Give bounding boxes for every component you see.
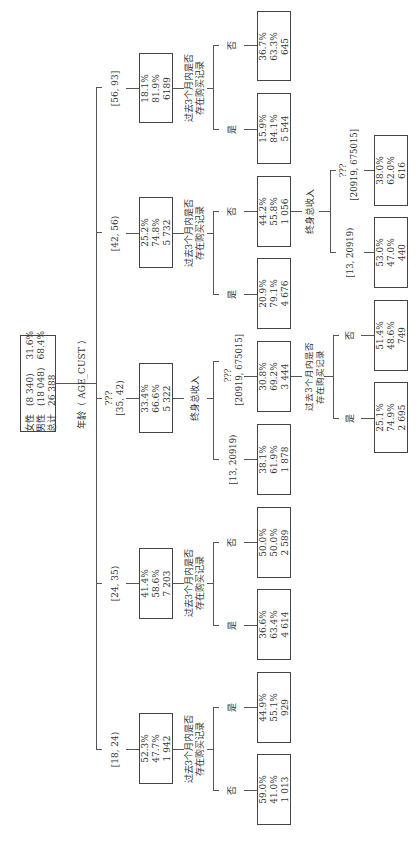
node-values: 50.0%50.0%2 589 — [258, 518, 291, 568]
node-values: 36.6%63.4%4 614 — [258, 600, 291, 650]
node-values: 36.7%63.3%645 — [258, 22, 291, 72]
connector — [244, 707, 257, 708]
root-count: (18 048) — [36, 367, 47, 406]
connector — [244, 129, 257, 130]
connector — [330, 252, 336, 253]
connector — [330, 170, 331, 253]
branch-label: 是 — [227, 618, 238, 634]
connector — [364, 252, 374, 253]
connector — [126, 398, 139, 399]
split-label: 过去3个月内是否存在购买记录 — [184, 48, 206, 128]
root-node-content: 女性 (8 340) 31.6% 男性 (18 048) 68.4% 总计 26… — [25, 336, 51, 432]
connector — [213, 361, 214, 460]
connector — [96, 87, 102, 88]
connector — [361, 418, 374, 419]
connector — [244, 625, 257, 626]
connector — [126, 233, 139, 234]
root-label: 总计 — [47, 414, 58, 432]
connector — [244, 211, 257, 212]
connector — [173, 233, 184, 234]
node-values: 15.9%84.1%5 544 — [258, 104, 291, 154]
connector — [291, 376, 302, 377]
connector — [333, 418, 339, 419]
connector — [213, 542, 214, 626]
connector — [319, 211, 330, 212]
connector — [213, 294, 219, 295]
connector — [126, 749, 139, 750]
branch-label: 是 — [227, 287, 238, 303]
split-label: 过去3个月内是否存在购买记录 — [184, 709, 206, 789]
connector — [173, 88, 184, 89]
root-label: 男性 — [36, 414, 47, 432]
branch-label: [18, 24) — [110, 730, 121, 770]
split-label: 终身总收入 — [190, 374, 201, 424]
node-values: 25.2%74.8%5 732 — [140, 208, 173, 258]
branch-label: [13, 20919) — [228, 430, 239, 490]
connector — [213, 625, 219, 626]
node-values: 18.1%81.9%6189 — [140, 64, 173, 114]
connector — [213, 707, 219, 708]
connector — [96, 232, 102, 233]
branch-label: 否 — [227, 535, 238, 551]
trunk-line — [96, 87, 97, 750]
split-label: 过去3个月内是否存在购买记录 — [184, 193, 206, 273]
node-values: 51.4%48.6%749 — [375, 311, 408, 361]
split-label: 过去3个月内是否存在购买记录 — [304, 337, 325, 417]
split-label: 过去3个月内是否存在购买记录 — [184, 543, 206, 623]
connector — [330, 170, 336, 171]
node-values: 20.9%79.1%4 676 — [258, 269, 291, 319]
branch-label: [56, 93] — [110, 69, 121, 109]
node-values: 33.4%66.6%5 322 — [140, 374, 173, 424]
branch-label: [24, 35) — [110, 564, 121, 604]
root-label: 女性 — [25, 414, 36, 432]
connector — [173, 749, 184, 750]
branch-label: 是 — [227, 700, 238, 716]
branch-label: [13, 20919) — [345, 223, 356, 283]
connector — [333, 335, 339, 336]
connector — [96, 398, 102, 399]
branch-label: 否 — [345, 328, 356, 344]
branch-label: 否 — [227, 783, 238, 799]
connector — [333, 335, 334, 419]
root-count: (8 340) — [25, 367, 36, 406]
connector — [213, 790, 219, 791]
branch-label: [42, 56) — [110, 214, 121, 254]
node-values: 44.9%55.1%929 — [258, 683, 291, 733]
connector — [96, 583, 102, 584]
connector — [324, 376, 333, 377]
node-values: 44.2%55.8%1 056 — [258, 187, 291, 237]
connector — [244, 45, 257, 46]
connector — [244, 459, 257, 460]
connector — [244, 294, 257, 295]
connector — [213, 129, 219, 130]
node-values: 52.3%47.7%1 942 — [140, 724, 173, 774]
root-count: 26 388 — [47, 367, 58, 406]
node-values: 59.0%41.0%1 013 — [258, 765, 291, 815]
connector — [96, 749, 102, 750]
branch-label: ???[35, 42) — [104, 378, 126, 418]
connector — [213, 459, 219, 460]
node-values: 38.0%62.0%616 — [375, 146, 408, 196]
node-values: 25.1%74.9%2 695 — [375, 393, 408, 443]
branch-label: 是 — [345, 411, 356, 427]
connector — [213, 707, 214, 791]
connector — [361, 335, 374, 336]
split-label: 终身总收入 — [305, 187, 316, 237]
connector — [213, 211, 214, 295]
node-values: 53.0%47.0%440 — [375, 228, 408, 278]
branch-label: ???[20919, 675015] — [223, 346, 244, 406]
root-pct: 31.6% — [25, 331, 36, 360]
connector — [173, 583, 184, 584]
connector — [244, 790, 257, 791]
node-values: 38.1%61.9%1 878 — [258, 435, 291, 485]
connector — [291, 211, 302, 212]
node-values: 41.4%58.6%7 203 — [140, 559, 173, 609]
branch-label: 否 — [227, 38, 238, 54]
connector — [126, 583, 139, 584]
connector — [213, 542, 219, 543]
root-split-label: 年龄（ AGE_CUST ） — [77, 339, 88, 429]
connector — [213, 211, 219, 212]
root-pct: 68.4% — [36, 331, 47, 360]
connector — [244, 376, 257, 377]
branch-label: 否 — [227, 204, 238, 220]
